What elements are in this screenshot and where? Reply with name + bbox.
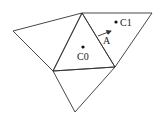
label-a: A [103, 36, 110, 46]
mesh-diagram: C1 A C0 [0, 0, 160, 126]
label-c1: C1 [120, 18, 132, 28]
point-c0 [81, 45, 84, 48]
triangle-t-left [13, 13, 82, 71]
triangle-t-bottom [53, 67, 115, 112]
point-c1 [114, 20, 117, 23]
mesh-canvas [0, 0, 160, 126]
label-c0: C0 [77, 52, 89, 62]
